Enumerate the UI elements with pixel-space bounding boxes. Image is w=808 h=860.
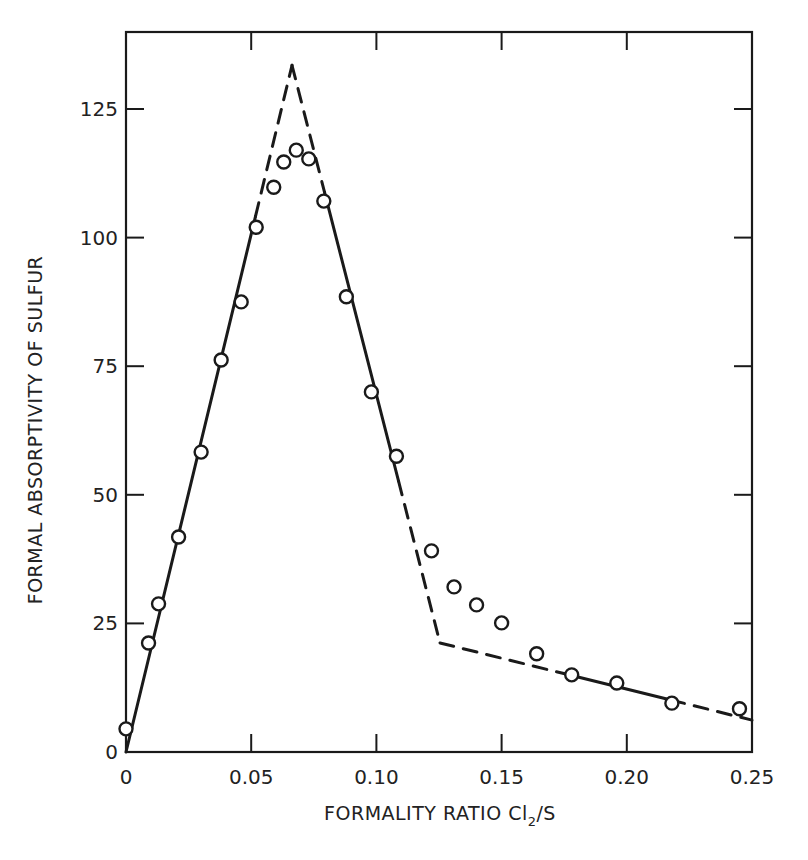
data-point [250,221,263,234]
data-point [530,647,543,660]
data-point [235,295,248,308]
fitted-line [126,65,752,752]
data-point [215,354,228,367]
data-point [470,598,483,611]
data-point [340,290,353,303]
data-point [495,616,508,629]
data-point [267,181,280,194]
x-axis-title: FORMALITY RATIO Cl2/S [324,802,556,829]
data-points [120,144,746,736]
y-tick-label: 75 [93,354,118,378]
data-point [152,597,165,610]
data-point [142,636,155,649]
data-point [302,152,315,165]
y-tick-label: 0 [105,740,118,764]
x-tick-label: 0.15 [479,765,524,789]
y-axis-title: FORMAL ABSORPTIVITY OF SULFUR [24,256,46,605]
data-point [665,697,678,710]
y-tick-label: 50 [93,483,118,507]
data-point [610,677,623,690]
x-tick-label: 0.10 [354,765,399,789]
data-point [290,144,303,157]
x-tick-label: 0.25 [730,765,775,789]
x-tick-label: 0 [120,765,133,789]
data-point [565,668,578,681]
data-point [365,385,378,398]
y-tick-label: 100 [80,226,118,250]
y-tick-label: 25 [93,611,118,635]
y-tick-label: 125 [80,97,118,121]
chart: 00.050.100.150.200.25 0255075100125 FORM… [0,0,808,860]
data-point [317,195,330,208]
data-point [448,580,461,593]
data-point [425,544,438,557]
data-point [733,702,746,715]
data-point [120,722,133,735]
y-axis-ticks: 0255075100125 [80,97,752,764]
data-point [195,446,208,459]
data-point [172,530,185,543]
data-point [390,450,403,463]
x-tick-label: 0.05 [229,765,274,789]
data-point [277,155,290,168]
x-tick-label: 0.20 [605,765,650,789]
x-axis-ticks: 00.050.100.150.200.25 [120,32,775,789]
